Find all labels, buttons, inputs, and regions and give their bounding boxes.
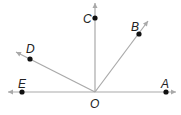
point-label-E: E (18, 77, 27, 91)
point-label-A: A (160, 77, 169, 91)
arrowhead-icon (8, 90, 13, 95)
point-D (27, 56, 32, 61)
point-label-O: O (90, 97, 99, 111)
point-label-B: B (131, 20, 139, 34)
angle-rays-diagram: O ABCDE (0, 0, 181, 115)
point-label-D: D (26, 42, 35, 56)
point-C (92, 15, 97, 20)
point-label-C: C (83, 12, 92, 26)
labels-layer: O ABCDE (18, 12, 169, 111)
arrowhead-icon (143, 21, 148, 27)
arrowhead-icon (171, 90, 176, 95)
arrowhead-icon (93, 3, 98, 8)
points-layer (19, 15, 168, 94)
